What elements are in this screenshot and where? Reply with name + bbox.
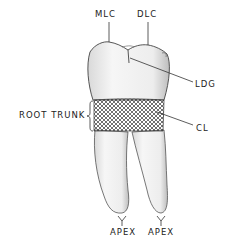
root-trunk-brace	[87, 101, 93, 131]
tooth-diagram: MLC DLC LDG ROOT TRUNK CL APEX APEX	[0, 0, 232, 243]
label-apex-left: APEX	[110, 228, 136, 237]
label-mlc: MLC	[95, 10, 116, 19]
label-apex-right: APEX	[148, 228, 174, 237]
label-dlc: DLC	[137, 10, 157, 19]
root-trunk-band	[94, 99, 164, 131]
crown	[88, 42, 170, 100]
mesial-root	[94, 130, 128, 213]
tooth-illustration	[0, 0, 232, 243]
distal-root	[132, 130, 167, 213]
label-ldg: LDG	[195, 80, 216, 89]
label-cl: CL	[196, 124, 209, 133]
label-root-trunk: ROOT TRUNK	[19, 111, 85, 120]
